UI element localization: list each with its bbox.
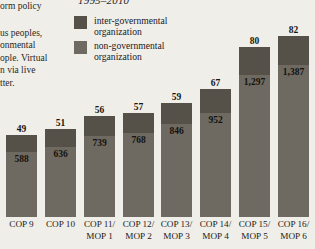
bar-segment-igo[interactable] — [161, 103, 192, 124]
bar-value-label-igo: 57 — [123, 102, 154, 112]
bar-value-label-igo: 82 — [278, 25, 309, 35]
bar-group[interactable]: 801,297 — [239, 31, 270, 217]
bar-stack[interactable]: 636 — [45, 129, 76, 217]
bar-segment-ngo[interactable]: 952 — [200, 113, 231, 217]
bar-group[interactable]: 67952 — [200, 73, 231, 217]
bar-value-label-ngo: 1,297 — [239, 77, 270, 87]
bar-stack[interactable]: 1,297 — [239, 47, 270, 217]
bar-value-label-ngo: 1,387 — [278, 67, 309, 77]
bar-chart-plot-area: 495885163656739577685984667952801,297821… — [0, 0, 315, 217]
x-axis-label-line2: MOP 6 — [273, 231, 314, 243]
bar-segment-igo[interactable] — [200, 89, 231, 113]
bar-group[interactable]: 56739 — [84, 100, 115, 217]
x-axis-label: COP 14/MOP 4 — [195, 219, 236, 242]
x-axis-label-line2: MOP 5 — [234, 231, 275, 243]
bar-stack[interactable]: 588 — [6, 135, 37, 217]
x-axis-label-line1: COP 9 — [1, 219, 42, 231]
bar-stack[interactable]: 952 — [200, 89, 231, 217]
bar-group[interactable]: 51636 — [45, 113, 76, 217]
x-axis-label-line1: COP 13/ — [156, 219, 197, 231]
bar-value-label-igo: 49 — [6, 124, 37, 134]
bar-segment-ngo[interactable]: 739 — [84, 136, 115, 217]
bar-segment-ngo[interactable]: 768 — [123, 133, 154, 217]
bar-segment-igo[interactable] — [123, 113, 154, 133]
bar-value-label-igo: 51 — [45, 118, 76, 128]
bar-value-label-ngo: 846 — [161, 126, 192, 136]
x-axis-label-line2: MOP 4 — [195, 231, 236, 243]
bar-group[interactable]: 821,387 — [278, 20, 309, 217]
bar-segment-ngo[interactable]: 846 — [161, 124, 192, 217]
bar-value-label-igo: 59 — [161, 92, 192, 102]
bar-value-label-igo: 80 — [239, 36, 270, 46]
x-axis-label-line1: COP 10 — [40, 219, 81, 231]
x-axis-label: COP 15/MOP 5 — [234, 219, 275, 242]
bar-value-label-igo: 67 — [200, 78, 231, 88]
x-axis-label: COP 13/MOP 3 — [156, 219, 197, 242]
bar-value-label-ngo: 588 — [6, 154, 37, 164]
bar-value-label-igo: 56 — [84, 105, 115, 115]
bar-segment-igo[interactable] — [278, 36, 309, 65]
bar-value-label-ngo: 739 — [84, 138, 115, 148]
bar-segment-ngo[interactable]: 636 — [45, 147, 76, 217]
bar-group[interactable]: 59846 — [161, 87, 192, 217]
bar-group[interactable]: 49588 — [6, 119, 37, 217]
bar-segment-ngo[interactable]: 1,297 — [239, 75, 270, 217]
x-axis-label-line1: COP 16/ — [273, 219, 314, 231]
x-axis-label: COP 12/MOP 2 — [118, 219, 159, 242]
bar-group[interactable]: 57768 — [123, 97, 154, 217]
x-axis-label-line1: COP 15/ — [234, 219, 275, 231]
bar-stack[interactable]: 846 — [161, 103, 192, 217]
bar-value-label-ngo: 768 — [123, 135, 154, 145]
x-axis-label: COP 16/MOP 6 — [273, 219, 314, 242]
bar-segment-igo[interactable] — [239, 47, 270, 75]
bar-segment-igo[interactable] — [45, 129, 76, 147]
x-axis-label-line1: COP 12/ — [118, 219, 159, 231]
x-axis-label: COP 9 — [1, 219, 42, 231]
x-axis-label-line1: COP 11/ — [79, 219, 120, 231]
bar-segment-ngo[interactable]: 1,387 — [278, 65, 309, 217]
bar-segment-igo[interactable] — [84, 116, 115, 136]
x-axis-label: COP 10 — [40, 219, 81, 231]
x-axis-label-line2: MOP 3 — [156, 231, 197, 243]
bar-stack[interactable]: 768 — [123, 113, 154, 217]
bar-stack[interactable]: 739 — [84, 116, 115, 217]
x-axis-label-line2: MOP 2 — [118, 231, 159, 243]
x-axis-labels: COP 9COP 10COP 11/MOP 1COP 12/MOP 2COP 1… — [0, 219, 315, 249]
bar-segment-ngo[interactable]: 588 — [6, 152, 37, 217]
bar-value-label-ngo: 952 — [200, 115, 231, 125]
x-axis-label: COP 11/MOP 1 — [79, 219, 120, 242]
bar-segment-igo[interactable] — [6, 135, 37, 152]
bar-stack[interactable]: 1,387 — [278, 36, 309, 217]
bar-value-label-ngo: 636 — [45, 149, 76, 159]
x-axis-label-line1: COP 14/ — [195, 219, 236, 231]
x-axis-label-line2: MOP 1 — [79, 231, 120, 243]
